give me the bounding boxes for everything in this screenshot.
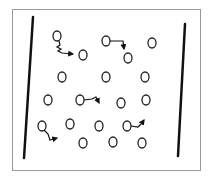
diagram-frame [13,10,201,171]
particle-diagram [0,0,209,176]
